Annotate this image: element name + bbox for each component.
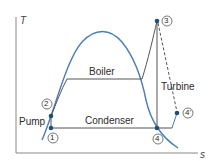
saturation-dome bbox=[42, 32, 178, 149]
superheat-exit-line bbox=[172, 113, 177, 128]
state-point-4 bbox=[155, 126, 160, 131]
turbine-label: Turbine bbox=[161, 82, 195, 92]
boiler-label: Boiler bbox=[89, 67, 115, 77]
point-label-4prime: 4' bbox=[185, 109, 191, 117]
superheat-line bbox=[142, 21, 157, 79]
pump-label: Pump bbox=[19, 117, 45, 127]
point-label-2: 2 bbox=[44, 100, 48, 108]
point-label-1: 1 bbox=[50, 134, 54, 142]
state-point-3 bbox=[155, 19, 160, 24]
x-axis-label: s bbox=[200, 150, 205, 160]
state-point-2 bbox=[49, 114, 54, 119]
point-label-3: 3 bbox=[164, 17, 168, 25]
state-point-1 bbox=[49, 126, 54, 131]
y-axis-label: T bbox=[20, 16, 26, 26]
turbine-actual-line bbox=[158, 23, 177, 112]
state-point-4prime bbox=[175, 111, 180, 116]
point-label-4: 4 bbox=[155, 135, 159, 143]
condenser-label: Condenser bbox=[85, 116, 134, 126]
heating-line bbox=[51, 79, 67, 116]
